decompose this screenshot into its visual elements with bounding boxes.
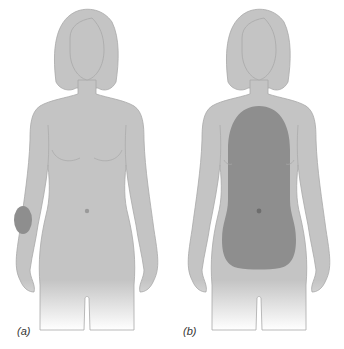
caption-a: (a) — [17, 325, 30, 337]
female-figure-a — [0, 0, 172, 349]
body — [16, 80, 158, 330]
face — [70, 18, 104, 80]
panel-a: (a) — [0, 0, 172, 349]
highlight-patch-forearm — [14, 206, 32, 234]
navel — [85, 209, 89, 213]
panel-b: (b) — [172, 0, 344, 349]
female-figure-b — [172, 0, 344, 349]
face — [242, 18, 276, 80]
caption-b: (b) — [183, 325, 196, 337]
navel — [257, 209, 262, 214]
highlight-region-torso — [222, 106, 296, 270]
